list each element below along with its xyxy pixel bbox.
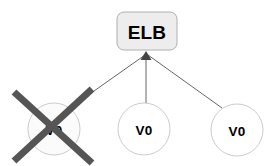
elb-label: ELB: [128, 22, 167, 43]
edge-group: [70, 55, 222, 108]
node-vm-3[interactable]: V0: [211, 104, 263, 156]
edge-vm3-to-elb: [148, 55, 222, 108]
diagram-svg: ELB V0 V0 V0: [0, 0, 279, 166]
diagram-canvas: ELB V0 V0 V0: [0, 0, 279, 166]
arrowhead-icon: [141, 51, 152, 60]
vm-2-label: V0: [136, 123, 153, 138]
vm-3-label: V0: [229, 124, 246, 139]
node-vm-2[interactable]: V0: [118, 103, 170, 155]
node-elb[interactable]: ELB: [117, 12, 177, 50]
